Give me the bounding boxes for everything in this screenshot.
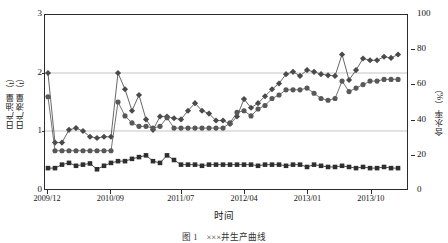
y-tick-right-mark [411, 120, 415, 121]
square-marker [326, 165, 331, 170]
x-tick-label: 2013/10 [357, 194, 384, 203]
circle-marker [346, 89, 351, 94]
diamond-marker [94, 135, 100, 141]
square-marker [368, 166, 373, 171]
circle-marker [283, 87, 288, 92]
x-tick-mark [244, 190, 245, 194]
diamond-marker [311, 69, 317, 75]
circle-marker [227, 120, 232, 125]
square-marker [200, 164, 205, 169]
circle-marker [129, 120, 134, 125]
circle-marker [115, 99, 120, 104]
y-tick-right-mark [411, 155, 415, 156]
circle-marker [255, 106, 260, 111]
square-marker [340, 164, 345, 169]
square-marker [396, 166, 401, 171]
x-tick-label: 2010/09 [97, 194, 124, 203]
square-marker [137, 155, 142, 160]
y-axis-right-ticks: 020406080100 [411, 0, 441, 243]
circle-marker [213, 126, 218, 131]
square-marker [312, 162, 317, 167]
circle-marker [220, 126, 225, 131]
diamond-marker [283, 71, 289, 77]
square-marker [165, 153, 170, 158]
square-marker [347, 165, 352, 170]
square-marker [263, 162, 268, 167]
square-marker [249, 162, 254, 167]
square-marker [221, 162, 226, 167]
square-marker [354, 166, 359, 171]
x-tick-label: 2011/07 [167, 194, 194, 203]
diamond-marker [220, 117, 226, 123]
x-tick-mark [181, 190, 182, 194]
x-tick-label: 2012/04 [231, 194, 258, 203]
square-marker [158, 161, 163, 166]
y-tick-right-label: 80 [417, 44, 443, 53]
circle-marker [318, 96, 323, 101]
circle-marker [304, 86, 309, 91]
circle-marker [108, 148, 113, 153]
y-axis-left-ticks: 0123 [16, 0, 42, 243]
circle-marker [241, 108, 246, 113]
diamond-marker [45, 70, 51, 76]
series-line [48, 79, 398, 150]
square-marker [60, 162, 65, 167]
diamond-marker [129, 108, 135, 114]
y-tick-right-label: 20 [417, 150, 443, 159]
circle-marker [381, 77, 386, 82]
plot-area [44, 14, 408, 190]
square-marker [130, 157, 135, 162]
series-2 [45, 77, 400, 153]
x-axis-title: 时间 [0, 208, 448, 222]
square-marker [305, 165, 310, 170]
square-marker [298, 162, 303, 167]
diamond-marker [66, 127, 72, 133]
diamond-marker [388, 55, 394, 61]
circle-marker [94, 148, 99, 153]
circle-marker [59, 148, 64, 153]
diamond-marker [171, 115, 177, 121]
circle-marker [80, 148, 85, 153]
square-marker [193, 162, 198, 167]
circle-marker [339, 79, 344, 84]
production-curve-figure: 日产油量（t） 日产液量（t） 含水率（%） 0123 020406080100… [0, 0, 448, 243]
y-tick-left-label: 1 [20, 126, 42, 135]
square-marker [389, 166, 394, 171]
square-marker [382, 165, 387, 170]
diamond-marker [122, 86, 128, 92]
square-marker [46, 166, 51, 171]
circle-marker [367, 79, 372, 84]
circle-marker [297, 87, 302, 92]
circle-marker [332, 96, 337, 101]
circle-marker [178, 126, 183, 131]
square-marker [242, 162, 247, 167]
circle-marker [192, 126, 197, 131]
y-axis-left-title-liquid: 日产油量（t） [7, 73, 16, 129]
y-tick-right-mark [411, 84, 415, 85]
circle-marker [101, 148, 106, 153]
square-marker [102, 164, 107, 169]
circle-marker [374, 79, 379, 84]
circle-marker [206, 126, 211, 131]
circle-marker [157, 124, 162, 129]
circle-marker [388, 77, 393, 82]
diamond-marker [290, 69, 296, 75]
square-marker [144, 153, 149, 158]
circle-marker [73, 148, 78, 153]
diamond-marker [353, 67, 359, 73]
y-tick-left-label: 2 [20, 68, 42, 77]
y-tick-right-label: 40 [417, 115, 443, 124]
series-line [48, 155, 398, 169]
x-tick-mark [47, 190, 48, 194]
square-marker [67, 161, 72, 166]
diamond-marker [332, 73, 338, 79]
square-marker [186, 162, 191, 167]
y-tick-right-label: 100 [417, 9, 443, 18]
square-marker [228, 162, 233, 167]
square-marker [116, 159, 121, 164]
square-marker [81, 162, 86, 167]
circle-marker [136, 124, 141, 129]
diamond-marker [339, 51, 345, 57]
y-tick-right-label: 0 [417, 185, 443, 194]
circle-marker [234, 110, 239, 115]
